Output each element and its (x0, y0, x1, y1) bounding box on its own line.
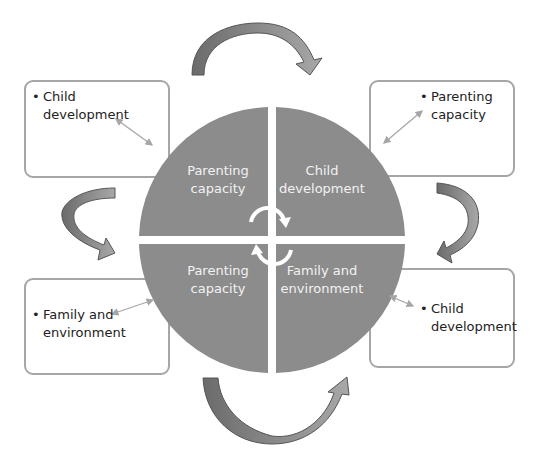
box-text-top-left: • Childdevelopment (43, 88, 129, 124)
quadrant-label-top-left: Parentingcapacity (158, 162, 278, 198)
cycle-circle (139, 107, 405, 373)
connector-top-right (384, 111, 422, 143)
quadrant-label-top-right: Childdevelopment (262, 162, 382, 198)
connector-bottom-right (390, 296, 413, 306)
diagram-canvas (0, 0, 536, 460)
curved-arrow-right (437, 183, 479, 263)
box-text-bottom-right: • Childdevelopment (431, 300, 517, 336)
box-text-bottom-left: • Family andenvironment (43, 306, 126, 342)
curved-arrow-left (62, 188, 115, 260)
box-text-top-right: • Parentingcapacity (431, 88, 493, 124)
quadrant-label-bottom-right: Family andenvironment (262, 262, 382, 298)
curved-arrow-top (192, 23, 322, 75)
quadrant-label-bottom-left: Parentingcapacity (158, 262, 278, 298)
curved-arrow-bottom (203, 377, 349, 444)
